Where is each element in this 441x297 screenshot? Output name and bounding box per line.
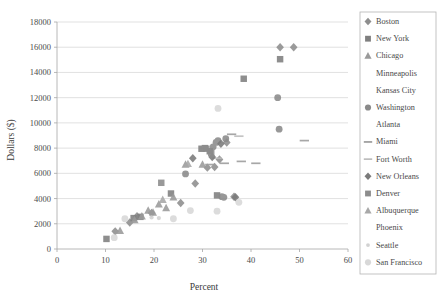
y-tick-label: 8000 — [34, 143, 51, 153]
legend-item-label: Fort Worth — [376, 155, 412, 164]
legend-marker-icon — [364, 158, 372, 160]
data-point — [269, 130, 277, 140]
x-tick-label: 60 — [344, 255, 353, 265]
data-point — [220, 194, 227, 201]
legend-item-label: Kansas City — [376, 86, 417, 95]
y-tick-label: 18000 — [30, 17, 51, 27]
x-tick-label: 20 — [150, 255, 159, 265]
data-point — [216, 155, 224, 163]
legend-item-label: Seattle — [376, 241, 399, 250]
y-tick-label: 2000 — [34, 219, 51, 229]
x-tick-label: 10 — [101, 255, 110, 265]
y-tick-label: 14000 — [30, 67, 51, 77]
x-tick-label: 0 — [55, 255, 59, 265]
legend-item-label: Boston — [376, 17, 399, 26]
data-points — [103, 43, 309, 242]
data-point — [142, 180, 151, 189]
data-point — [276, 126, 283, 133]
data-point — [187, 207, 194, 214]
data-point — [222, 135, 229, 142]
data-point — [273, 117, 282, 126]
series-seattle — [149, 215, 160, 220]
data-point — [182, 171, 189, 178]
data-point — [178, 223, 187, 232]
axes — [54, 22, 348, 252]
data-point — [237, 161, 246, 163]
data-point — [150, 180, 159, 189]
series-kansas-city — [138, 130, 277, 224]
legend-item-label: Phoenix — [376, 223, 403, 232]
y-axis-title: Dollars ($) — [6, 119, 17, 160]
legend-item-label: New York — [376, 34, 410, 43]
data-point — [208, 150, 214, 156]
data-point — [205, 164, 214, 166]
legend-item-label: Denver — [376, 189, 400, 198]
legend-marker-icon — [365, 104, 371, 110]
data-point — [189, 154, 197, 162]
x-tick-label: 30 — [198, 255, 207, 265]
legend-marker-icon — [365, 191, 371, 197]
data-point — [214, 208, 221, 215]
y-tick-label: 0 — [47, 244, 51, 254]
data-point — [220, 162, 229, 164]
series-atlanta — [142, 117, 282, 232]
y-tick-label: 6000 — [34, 168, 51, 178]
legend-item-label: Minneapolis — [376, 69, 417, 78]
data-point — [227, 133, 236, 135]
data-point — [159, 196, 167, 203]
y-tick-label: 16000 — [30, 42, 51, 52]
data-point — [251, 162, 260, 164]
legend-item-label: Albuquerque — [376, 206, 419, 215]
data-point — [235, 199, 242, 206]
data-point — [177, 199, 185, 207]
grid-lines — [57, 22, 348, 224]
scatter-chart: 0200040006000800010000120001400016000180… — [0, 0, 441, 297]
data-point — [151, 190, 158, 197]
data-point — [191, 179, 199, 187]
legend-item-label: Washington — [376, 103, 415, 112]
legend-marker-icon — [364, 141, 372, 143]
legend-item-label: Miami — [376, 137, 399, 146]
x-tick-label: 50 — [295, 255, 304, 265]
data-point — [170, 215, 177, 222]
data-point — [103, 236, 109, 242]
y-tick-label: 10000 — [30, 118, 51, 128]
data-point — [225, 147, 234, 156]
data-point — [145, 190, 152, 197]
legend-item-phoenix[interactable]: Phoenix — [376, 223, 403, 232]
data-point — [149, 215, 153, 219]
legend-item-label: San Francisco — [376, 258, 422, 267]
y-tick-label: 4000 — [34, 194, 51, 204]
legend[interactable]: BostonNew YorkChicagoMinneapolisKansas C… — [360, 12, 436, 274]
y-tick-labels: 0200040006000800010000120001400016000180… — [30, 17, 51, 254]
series-new-york — [103, 56, 283, 242]
data-point — [234, 135, 243, 137]
data-point — [290, 43, 298, 51]
legend-marker-icon — [366, 243, 370, 247]
data-point — [140, 188, 148, 198]
data-point — [158, 180, 164, 186]
data-point — [111, 234, 118, 241]
data-point — [215, 105, 222, 112]
data-point — [175, 148, 182, 155]
chart-canvas: 0200040006000800010000120001400016000180… — [0, 0, 441, 297]
y-tick-label: 12000 — [30, 93, 51, 103]
data-point — [158, 190, 165, 197]
data-point — [162, 204, 170, 211]
x-tick-labels: 0102030405060 — [55, 255, 352, 265]
data-point — [277, 56, 283, 62]
legend-marker-icon — [365, 259, 371, 265]
x-axis-title: Percent — [190, 282, 219, 292]
legend-item-label: New Orleans — [376, 172, 419, 181]
x-tick-label: 40 — [247, 255, 256, 265]
legend-item-label: Atlanta — [376, 120, 400, 129]
legend-item-label: Chicago — [376, 51, 403, 60]
data-point — [121, 215, 128, 222]
legend-marker-icon — [365, 36, 371, 42]
data-point — [274, 94, 281, 101]
data-point — [300, 140, 309, 142]
series-boston — [111, 43, 297, 236]
data-point — [276, 43, 284, 51]
data-point — [241, 76, 247, 82]
data-point — [157, 216, 161, 220]
